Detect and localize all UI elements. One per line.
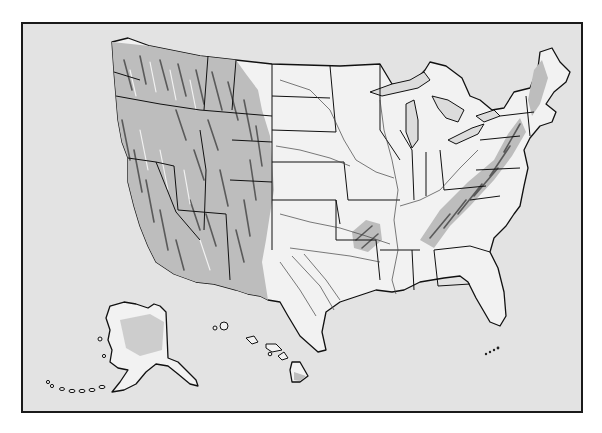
western-mountains-relief bbox=[112, 42, 274, 300]
hawaii bbox=[213, 322, 308, 382]
florida-keys bbox=[485, 347, 500, 356]
us-relief-map bbox=[0, 0, 602, 433]
aleutian-islands bbox=[46, 337, 105, 393]
